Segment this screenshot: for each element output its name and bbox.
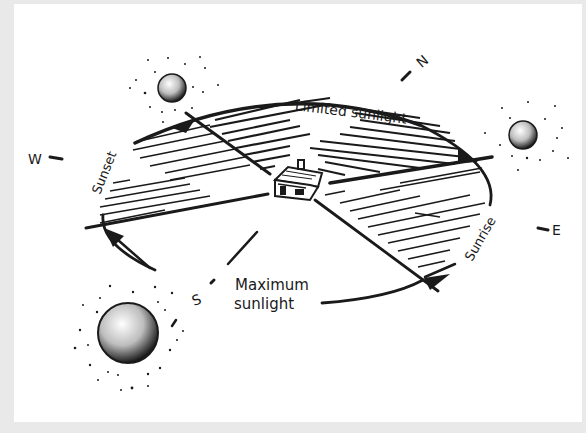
north-tick — [402, 72, 410, 80]
west-tick — [50, 157, 62, 159]
limited-sunlight-label: Limited sunlight — [294, 97, 408, 127]
sunrise-hatching — [325, 168, 485, 267]
sunset-label: Sunset — [89, 149, 120, 196]
east-tick — [538, 228, 548, 230]
sun-icon-west — [129, 56, 219, 123]
sun-icon-south — [74, 285, 184, 391]
compass-west-label: W — [28, 151, 42, 167]
sunrise-label: Sunrise — [462, 214, 499, 263]
maximum-sunlight-label-line1: Maximum — [235, 276, 309, 294]
compass-east-label: E — [552, 222, 561, 238]
sunset-hatching — [100, 125, 250, 223]
compass-ticks — [50, 72, 548, 230]
compass-north-label: N — [413, 52, 431, 71]
arrow-icon-ne — [458, 147, 478, 163]
sun-icon-east — [484, 101, 569, 171]
house-icon — [275, 160, 322, 200]
maximum-sunlight-label-line2: sunlight — [234, 295, 294, 313]
compass-south-label: S — [190, 291, 204, 309]
sun-path-diagram: W N E S Limited sunlight Sunset Sunrise … — [0, 0, 586, 433]
